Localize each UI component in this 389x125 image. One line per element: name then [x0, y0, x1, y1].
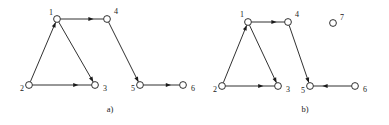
node-circle-b1[interactable] [245, 19, 252, 26]
edge-line-a-2-1 [30, 22, 55, 82]
node-circle-b5[interactable] [307, 83, 314, 90]
edge-a-1-4 [60, 17, 103, 21]
node-circle-b4[interactable] [285, 19, 292, 26]
graph-node-b4[interactable]: 4 [285, 10, 299, 26]
graph-node-a5[interactable]: 5 [131, 82, 143, 93]
edge-b-6-5 [313, 84, 351, 88]
node-circle-b7[interactable] [330, 20, 337, 27]
graph-node-a6[interactable]: 6 [180, 82, 195, 93]
node-label-b5: 5 [301, 86, 305, 95]
arrowhead-a-2-1 [52, 22, 56, 28]
node-circle-a3[interactable] [92, 82, 99, 89]
node-label-b4: 4 [295, 10, 299, 19]
panel-a-edges [30, 17, 179, 87]
node-label-b3: 3 [286, 85, 290, 94]
graph-node-b6[interactable]: 6 [352, 83, 367, 94]
arrowhead-a-4-5 [134, 76, 138, 82]
graph-node-a2[interactable]: 2 [20, 82, 32, 93]
edge-a-2-1 [30, 22, 55, 82]
node-circle-a6[interactable] [180, 82, 187, 89]
node-label-a3: 3 [103, 84, 107, 93]
node-label-b2: 2 [213, 85, 217, 94]
graph-node-a1[interactable]: 1 [49, 8, 60, 23]
edge-b-2-1 [223, 25, 246, 83]
edge-a-2-3 [32, 83, 91, 87]
edge-a-5-6 [143, 83, 179, 87]
node-label-b6: 6 [363, 85, 367, 94]
arrowhead-b-2-3 [258, 84, 263, 88]
graph-node-b3[interactable]: 3 [275, 83, 290, 94]
edge-line-b-2-1 [223, 25, 246, 83]
node-circle-b2[interactable] [219, 83, 226, 90]
node-circle-a4[interactable] [104, 16, 111, 23]
edge-a-1-3 [59, 22, 94, 82]
graph-node-b7[interactable]: 7 [330, 13, 344, 27]
arrowhead-b-1-3 [273, 77, 277, 83]
arrowhead-a-1-4 [88, 17, 93, 21]
graph-node-b5[interactable]: 5 [301, 83, 313, 95]
edge-line-b-1-3 [249, 25, 276, 83]
arrowhead-b-2-1 [243, 25, 247, 31]
node-label-b7: 7 [340, 13, 344, 22]
node-circle-b3[interactable] [275, 83, 282, 90]
node-circle-a2[interactable] [26, 82, 33, 89]
edge-line-b-4-5 [289, 25, 309, 83]
node-circle-a5[interactable] [137, 82, 144, 89]
arrowhead-a-1-3 [89, 77, 93, 83]
node-label-a2: 2 [20, 84, 24, 93]
panel-caption-panel-b: b) [301, 104, 308, 114]
arrowhead-b-1-4 [271, 20, 276, 24]
node-circle-b6[interactable] [352, 83, 359, 90]
edge-b-4-5 [289, 25, 309, 83]
panel-b-edges [223, 20, 351, 88]
edge-b-2-3 [225, 84, 274, 88]
arrowhead-a-2-3 [73, 83, 78, 87]
node-label-a4: 4 [114, 7, 118, 16]
node-circle-a1[interactable] [54, 16, 61, 23]
arrowhead-a-5-6 [166, 83, 171, 87]
edge-b-1-3 [249, 25, 276, 83]
node-label-a1: 1 [49, 8, 53, 17]
arrowhead-b-6-5 [322, 84, 327, 88]
figure-canvas: 123456a)1234567b) [0, 0, 389, 125]
panel-a-nodes: 123456 [20, 7, 195, 93]
node-label-b1: 1 [240, 10, 244, 19]
panel-a: 123456a) [20, 7, 195, 114]
edge-line-a-4-5 [109, 22, 139, 82]
panel-b: 1234567b) [213, 10, 367, 114]
edge-line-a-1-3 [59, 22, 94, 82]
edge-a-4-5 [109, 22, 139, 82]
graph-node-b2[interactable]: 2 [213, 83, 225, 94]
node-label-a5: 5 [131, 84, 135, 93]
panel-caption-panel-a: a) [107, 104, 114, 114]
edge-b-1-4 [251, 20, 284, 24]
graph-node-a4[interactable]: 4 [104, 7, 118, 23]
node-label-a6: 6 [191, 84, 195, 93]
arrowhead-b-4-5 [305, 77, 309, 83]
graph-node-b1[interactable]: 1 [240, 10, 251, 26]
directed-graph-figure: 123456a)1234567b) [0, 0, 389, 125]
graph-node-a3[interactable]: 3 [92, 82, 107, 93]
